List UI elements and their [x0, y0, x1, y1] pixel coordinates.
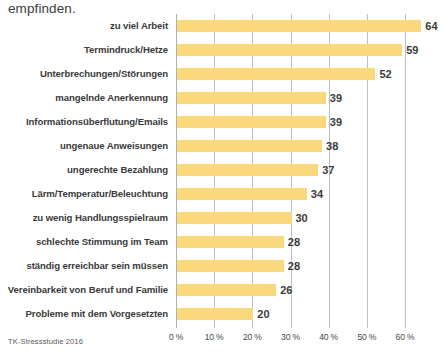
- bar-row: ständig erreichbar sein müssen28: [0, 254, 443, 278]
- bar-row: Unterbrechungen/Störungen52: [0, 62, 443, 86]
- bar-value-label: 59: [406, 38, 418, 62]
- category-label: schlechte Stimmung im Team: [0, 230, 168, 254]
- bar-row: Termindruck/Hetze59: [0, 38, 443, 62]
- x-axis-tick-label: 30 %: [281, 332, 300, 342]
- bar-value-label: 39: [330, 86, 342, 110]
- bar: [177, 212, 292, 224]
- category-label: Unterbrechungen/Störungen: [0, 62, 168, 86]
- bar: [177, 44, 402, 56]
- bar-value-label: 28: [288, 254, 300, 278]
- bar-row: zu wenig Handlungsspielraum30: [0, 206, 443, 230]
- category-label: Vereinbarkeit von Beruf und Familie: [0, 278, 168, 302]
- bar: [177, 284, 276, 296]
- bar-value-label: 26: [280, 278, 292, 302]
- bar: [177, 140, 322, 152]
- bar-value-label: 34: [311, 182, 323, 206]
- bar-row: Vereinbarkeit von Beruf und Familie26: [0, 278, 443, 302]
- bar-value-label: 30: [296, 206, 308, 230]
- category-label: ungenaue Anweisungen: [0, 134, 168, 158]
- bar: [177, 260, 284, 272]
- bar: [177, 20, 421, 32]
- bar-row: ungerechte Bezahlung37: [0, 158, 443, 182]
- x-axis-tick-label: 60 %: [396, 332, 415, 342]
- bar-row: Informationsüberflutung/Emails39: [0, 110, 443, 134]
- category-label: mangelnde Anerkennung: [0, 86, 168, 110]
- x-axis-tick-label: 40 %: [319, 332, 338, 342]
- bar-value-label: 28: [288, 230, 300, 254]
- category-label: zu wenig Handlungsspielraum: [0, 206, 168, 230]
- x-axis-tick-label: 10 %: [205, 332, 224, 342]
- bar: [177, 164, 318, 176]
- bar: [177, 116, 326, 128]
- stress-factors-bar-chart: empfinden. zu viel Arbeit64Termindruck/H…: [0, 0, 443, 358]
- bar-value-label: 20: [257, 302, 269, 326]
- bar-value-label: 39: [330, 110, 342, 134]
- bar-row: schlechte Stimmung im Team28: [0, 230, 443, 254]
- bar: [177, 308, 253, 320]
- bar-row: ungenaue Anweisungen38: [0, 134, 443, 158]
- category-label: ständig erreichbar sein müssen: [0, 254, 168, 278]
- x-axis-tick-label: 50 %: [357, 332, 376, 342]
- category-label: ungerechte Bezahlung: [0, 158, 168, 182]
- bar-row: mangelnde Anerkennung39: [0, 86, 443, 110]
- x-axis: 0 %10 %20 %30 %40 %50 %60 %: [176, 332, 436, 352]
- bar-row: Lärm/Temperatur/Beleuchtung34: [0, 182, 443, 206]
- bar-value-label: 38: [326, 134, 338, 158]
- bar-row: Probleme mit dem Vorgesetzten20: [0, 302, 443, 326]
- bar-value-label: 52: [379, 62, 391, 86]
- bar: [177, 236, 284, 248]
- source-note: TK-Stressstudie 2016: [8, 337, 83, 346]
- category-label: zu viel Arbeit: [0, 14, 168, 38]
- category-label: Probleme mit dem Vorgesetzten: [0, 302, 168, 326]
- bar: [177, 68, 375, 80]
- category-label: Termindruck/Hetze: [0, 38, 168, 62]
- x-axis-tick-label: 0 %: [169, 332, 183, 342]
- bar: [177, 92, 326, 104]
- category-label: Informationsüberflutung/Emails: [0, 110, 168, 134]
- bar: [177, 188, 307, 200]
- x-axis-tick-label: 20 %: [243, 332, 262, 342]
- category-label: Lärm/Temperatur/Beleuchtung: [0, 182, 168, 206]
- bar-value-label: 64: [425, 14, 437, 38]
- plot-area: zu viel Arbeit64Termindruck/Hetze59Unter…: [176, 14, 405, 328]
- bar-row: zu viel Arbeit64: [0, 14, 443, 38]
- bar-rows: zu viel Arbeit64Termindruck/Hetze59Unter…: [0, 14, 443, 328]
- bar-value-label: 37: [322, 158, 334, 182]
